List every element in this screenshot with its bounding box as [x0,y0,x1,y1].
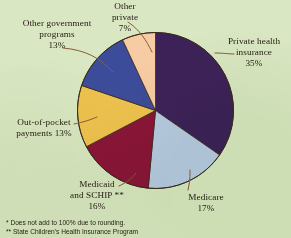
footnotes: * Does not add to 100% due to rounding. … [6,219,246,236]
slice-label-medicaid-and-schip: Medicaid and SCHIP ** 16% [55,179,139,213]
slice-label-medicare: Medicare 17% [176,192,236,214]
slice-label-other-government-programs: Other government programs 13% [2,18,112,52]
slice-label-out-of-pocket-payments: Out-of-pocket payments 13% [2,117,86,139]
pie-slice-group [77,33,233,189]
footnote-schip: ** State Children's Health Insurance Pro… [6,228,246,237]
footnote-rounding: * Does not add to 100% due to rounding. [6,219,246,228]
slice-label-private-health-insurance: Private health insurance 35% [218,36,290,70]
